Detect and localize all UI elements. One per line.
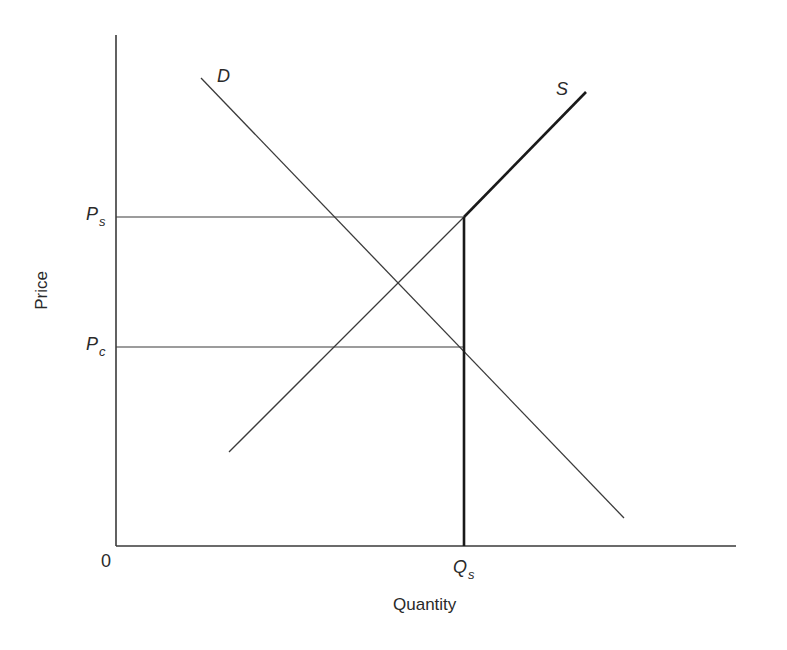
x-axis-title: Quantity: [393, 596, 456, 613]
origin-label: 0: [101, 552, 111, 570]
ps-label-sub: s: [99, 214, 106, 229]
pc-label-main: P: [86, 334, 98, 354]
ps-label: Ps: [86, 205, 105, 223]
demand-curve: [201, 78, 624, 518]
demand-label: D: [217, 67, 230, 85]
pc-label-sub: c: [99, 344, 106, 359]
y-axis-title: Price: [33, 271, 50, 310]
supply-curve-lower: [229, 217, 464, 452]
qs-label-sub: s: [468, 567, 475, 582]
pc-label: Pc: [86, 335, 105, 353]
supply-demand-diagram: [0, 0, 787, 650]
supply-curve-upper: [464, 92, 586, 217]
qs-label-main: Q: [453, 557, 467, 577]
ps-label-main: P: [86, 204, 98, 224]
supply-label: S: [556, 80, 568, 98]
qs-label: Qs: [453, 558, 474, 576]
